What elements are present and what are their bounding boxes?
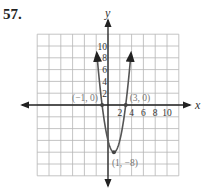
x-tick-label: 4 — [129, 108, 134, 118]
x-tick-label: 6 — [141, 108, 146, 118]
point-marker — [124, 103, 128, 107]
y-tick-label: 4 — [102, 77, 107, 87]
point-marker — [100, 103, 104, 107]
y-tick-label: 2 — [102, 89, 107, 99]
x-tick-label: 2 — [117, 108, 122, 118]
point-label: (3, 0) — [130, 93, 151, 104]
point-marker — [112, 150, 116, 154]
y-axis-label: y — [104, 6, 111, 20]
graph: xy246810246810(−1, 0)(3, 0)(1, −8) — [0, 0, 208, 188]
x-axis-label: x — [194, 98, 201, 112]
y-tick-label: 8 — [102, 53, 107, 63]
y-tick-label: 10 — [98, 42, 108, 52]
point-label: (−1, 0) — [72, 93, 98, 104]
x-tick-label: 10 — [162, 108, 172, 118]
y-tick-label: 6 — [102, 65, 107, 75]
point-label: (1, −8) — [112, 158, 138, 169]
x-tick-label: 8 — [153, 108, 158, 118]
